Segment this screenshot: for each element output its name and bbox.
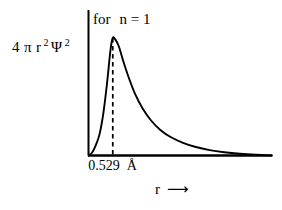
x-axis-tick-label: 0.529Å bbox=[88, 157, 137, 174]
plot-area bbox=[0, 0, 282, 210]
x-axis-variable: r bbox=[155, 180, 160, 198]
radial-distribution-chart: 4πr2Ψ2 forn = 1 0.529Å r⟶ bbox=[0, 0, 282, 210]
distribution-curve bbox=[89, 37, 273, 155]
x-axis-title: r⟶ bbox=[155, 180, 189, 198]
arrow-right-icon: ⟶ bbox=[167, 180, 189, 198]
tick-unit: Å bbox=[120, 158, 137, 173]
tick-value: 0.529 bbox=[88, 158, 120, 173]
